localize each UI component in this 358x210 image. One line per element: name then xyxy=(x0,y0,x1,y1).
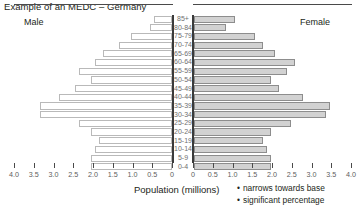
annotation-list: •narrows towards base•significant percen… xyxy=(237,183,325,206)
female-bar xyxy=(194,155,271,162)
female-bar xyxy=(194,42,263,49)
bar-row xyxy=(14,76,172,85)
x-axis-title: Population (millions) xyxy=(134,184,220,195)
axis-tick xyxy=(312,163,313,168)
age-group-label: 65-69 xyxy=(172,50,194,59)
male-bar xyxy=(150,24,172,31)
axis-tick-label: 2.0 xyxy=(267,170,277,179)
axis-tick xyxy=(73,163,74,168)
axis-tick xyxy=(252,163,253,168)
female-bar xyxy=(194,24,226,31)
bar-row xyxy=(14,24,172,33)
male-bar xyxy=(91,155,172,162)
age-group-label: 5-9 xyxy=(172,154,194,163)
axis-tick-label: 1.0 xyxy=(228,170,238,179)
axis-tick-label: 1.0 xyxy=(128,170,138,179)
axis-tick xyxy=(292,163,293,168)
axis-tick xyxy=(193,163,194,168)
axis-tick xyxy=(331,163,332,168)
female-bars-panel xyxy=(194,15,352,163)
axis-tick xyxy=(34,163,35,168)
population-pyramid-figure: Example of an MEDC – Germany Male Female… xyxy=(0,0,358,210)
age-group-label: 20-24 xyxy=(172,128,194,137)
axis-tick-label: 4.0 xyxy=(9,170,19,179)
bar-row xyxy=(14,32,172,41)
bar-row xyxy=(194,24,352,33)
axis-tick-label: 3.0 xyxy=(307,170,317,179)
male-bar xyxy=(95,146,172,153)
male-bar xyxy=(91,128,172,135)
bar-row xyxy=(194,111,352,120)
bullet-icon: • xyxy=(237,183,240,193)
male-bar xyxy=(40,102,172,109)
bar-row xyxy=(194,76,352,85)
male-bar-rows xyxy=(14,15,172,163)
annotation-item: •significant percentage xyxy=(237,195,325,207)
age-group-label: 35-39 xyxy=(172,102,194,111)
age-group-label: 15-19 xyxy=(172,137,194,146)
bar-row xyxy=(14,102,172,111)
bar-row xyxy=(14,93,172,102)
bar-row xyxy=(14,67,172,76)
female-bar-rows xyxy=(194,15,352,163)
age-group-labels: 85+80-8475-7970-7465-6960-6455-5950-5445… xyxy=(172,15,194,163)
axis-tick xyxy=(133,163,134,168)
bar-row xyxy=(194,41,352,50)
bar-row xyxy=(194,137,352,146)
male-bar xyxy=(59,94,172,101)
female-bar xyxy=(194,137,263,144)
bar-row xyxy=(14,85,172,94)
female-axis-ticks xyxy=(193,163,352,168)
bar-row xyxy=(194,15,352,24)
axis-tick-label: 0.5 xyxy=(147,170,157,179)
age-group-label: 75-79 xyxy=(172,32,194,41)
female-bar xyxy=(194,33,255,40)
bar-row xyxy=(194,67,352,76)
age-group-label: 40-44 xyxy=(172,93,194,102)
axis-tick-label: 1.5 xyxy=(247,170,257,179)
bar-row xyxy=(14,128,172,137)
axis-tick-label: 3.5 xyxy=(326,170,336,179)
female-axis-base xyxy=(193,4,352,5)
axis-tick-label: 3.0 xyxy=(49,170,59,179)
bar-row xyxy=(194,32,352,41)
female-bar xyxy=(194,111,326,118)
bar-row xyxy=(14,145,172,154)
bar-row xyxy=(194,145,352,154)
female-bar xyxy=(194,94,303,101)
axis-tick xyxy=(152,163,153,168)
axis-tick-label: 0.5 xyxy=(208,170,218,179)
axis-tick-label: 2.5 xyxy=(287,170,297,179)
annotation-item: •narrows towards base xyxy=(237,183,325,195)
male-bar xyxy=(95,59,172,66)
female-bar xyxy=(194,50,275,57)
male-bar xyxy=(154,16,172,23)
axis-tick-label: 2.5 xyxy=(68,170,78,179)
bar-row xyxy=(14,58,172,67)
bar-row xyxy=(194,85,352,94)
male-bar xyxy=(91,76,172,83)
axis-tick-label: 2.0 xyxy=(88,170,98,179)
age-group-label: 80-84 xyxy=(172,24,194,33)
bar-row xyxy=(194,119,352,128)
female-bar xyxy=(194,85,279,92)
age-group-label: 50-54 xyxy=(172,76,194,85)
bar-row xyxy=(14,41,172,50)
female-bar xyxy=(194,146,267,153)
annotation-text: narrows towards base xyxy=(243,183,325,193)
axis-tick xyxy=(172,163,173,168)
axis-tick-label: 0 xyxy=(191,170,195,179)
bar-row xyxy=(14,119,172,128)
bar-row xyxy=(194,58,352,67)
female-bar xyxy=(194,59,295,66)
annotation-text: significant percentage xyxy=(243,195,324,205)
axis-tick-label: 1.5 xyxy=(108,170,118,179)
female-bar xyxy=(194,68,287,75)
bullet-icon: • xyxy=(237,195,240,205)
age-group-label: 85+ xyxy=(172,15,194,24)
male-axis-base xyxy=(14,4,173,5)
male-bar xyxy=(40,111,172,118)
axis-tick xyxy=(14,163,15,168)
bar-row xyxy=(14,154,172,163)
axis-tick xyxy=(213,163,214,168)
